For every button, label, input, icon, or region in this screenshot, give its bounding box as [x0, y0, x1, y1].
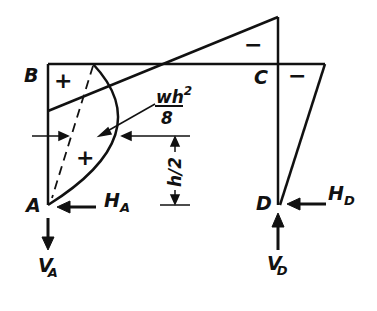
sign-beam-top: −	[244, 32, 262, 57]
svg-text:wh2: wh2	[156, 84, 192, 107]
sign-b-region: +	[54, 68, 72, 93]
node-label-d: D	[256, 192, 272, 214]
sign-c-right: −	[288, 63, 306, 88]
label-ha: HA	[104, 189, 130, 215]
reaction-arrows	[42, 198, 326, 250]
h-half-label: h/2	[165, 157, 185, 187]
leader-arrow	[99, 104, 155, 136]
peak-moment-label: wh2 8	[155, 84, 192, 128]
node-label-b: B	[24, 64, 38, 86]
moment-lines	[48, 17, 325, 205]
node-label-a: A	[24, 194, 41, 216]
label-va: VA	[38, 254, 58, 280]
frame-outline	[48, 17, 325, 205]
label-vd: VD	[267, 252, 288, 278]
sign-column-region: +	[76, 145, 94, 170]
label-hd: HD	[328, 182, 355, 208]
node-label-c: C	[254, 66, 268, 88]
frame-moment-diagram: B C A D HA VA HD VD wh2 8 h/2 + + − −	[0, 0, 377, 311]
svg-text:8: 8	[161, 108, 173, 128]
